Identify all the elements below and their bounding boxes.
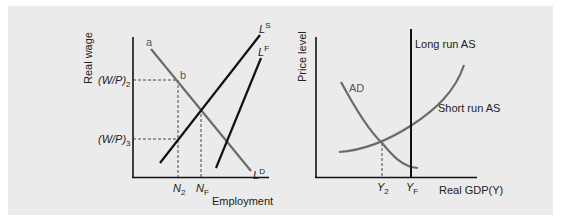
labor-force-curve [216,58,261,168]
aggregate-demand-curve [341,82,418,168]
price-level-axis-label: Price level [296,31,308,82]
labor-market-and-as-ad-diagram: Real wage Employment (W/P)2 (W/P)3 N2 NF… [0,0,561,222]
labor-force-label: LF [258,44,269,58]
labor-demand-label: LD [253,167,265,181]
labor-supply-label: LS [259,21,270,35]
long-run-as-label: Long run AS [415,38,476,50]
y-f-tick-label: YF [406,181,418,196]
real-gdp-axis-label: Real GDP(Y) [439,184,503,196]
short-run-as-label: Short run AS [438,102,500,114]
as-ad-chart: Price level Real GDP(Y) Y2 YF Long run A… [296,29,503,196]
w-p-3-tick-label: (W/P)3 [98,133,131,148]
y-2-tick-label: Y2 [377,181,389,196]
point-a-label: a [146,36,153,48]
w-p-2-tick-label: (W/P)2 [98,74,131,89]
labor-market-chart: Real wage Employment (W/P)2 (W/P)3 N2 NF… [82,21,273,207]
aggregate-demand-label: AD [349,82,364,94]
n-f-tick-label: NF [196,182,209,197]
point-b-label: b [180,69,186,81]
real-wage-axis-label: Real wage [82,32,94,84]
employment-axis-label: Employment [212,195,273,207]
n-2-tick-label: N2 [173,182,186,197]
